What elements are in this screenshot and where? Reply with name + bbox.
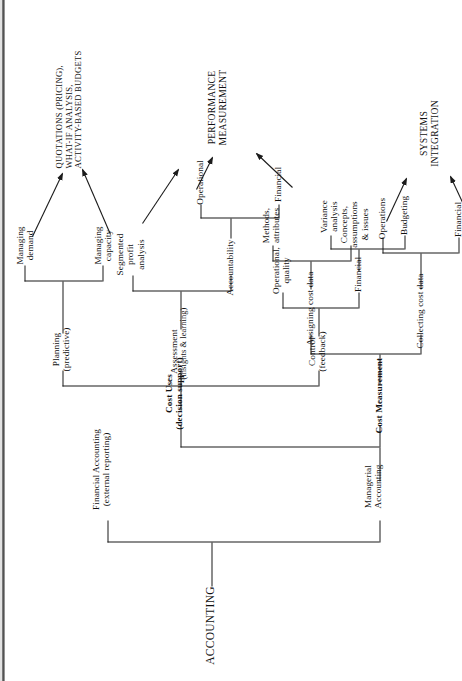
node-managing-capacity: Managing capacity xyxy=(92,221,113,269)
node-collecting-operations: Operations xyxy=(376,195,386,241)
node-collecting-financial: Financial xyxy=(452,198,462,240)
node-managing-capacity-line2: capacity xyxy=(102,221,112,269)
node-cost-measurement-label: Cost Measurement xyxy=(373,377,383,433)
node-planning-line2: (predictive) xyxy=(60,325,70,373)
node-concepts-assumptions-issues: Concepts, assumptions & issues xyxy=(338,197,369,251)
outcome-systems-integration: SYSTEMS INTEGRATION xyxy=(418,90,439,176)
node-assessment-line1: Assessment xyxy=(168,323,178,379)
arrow-segmented-to-performance xyxy=(142,169,178,223)
node-managing-demand: Managing demand xyxy=(14,221,35,269)
node-planning-line1: Planning xyxy=(50,325,60,373)
node-methods-attributes: Methods, attributes xyxy=(260,201,281,249)
node-accountability-operational: Operational xyxy=(194,157,204,207)
node-control-operational-line1: Operational, xyxy=(270,244,280,296)
node-control-operational-line2: quality xyxy=(280,244,290,296)
node-control-operational-quality: Operational, quality xyxy=(270,244,291,296)
node-managing-demand-line2: demand xyxy=(24,221,34,269)
node-segmented-profit-analysis: Segmented profit analysis xyxy=(114,229,145,279)
outcome-quotations-line1: QUOTATIONS (PRICING), xyxy=(54,18,64,168)
node-root-label: ACCOUNTING xyxy=(203,586,215,665)
node-assessment: Assessment (insights & learning) xyxy=(168,323,188,379)
outcome-performance-measurement-line1: PERFORMANCE xyxy=(206,53,217,161)
node-control-line1: Control xyxy=(306,329,316,373)
node-collecting-cost-data-label: Collecting cost data xyxy=(414,284,424,348)
node-methods-line1: Methods, xyxy=(260,201,270,249)
node-concepts-line3: & issues xyxy=(359,197,369,251)
node-accountability: Accountability xyxy=(224,237,234,297)
node-managerial-accounting: Managerial Accounting xyxy=(362,451,383,521)
node-collecting-operations-label: Operations xyxy=(376,195,386,241)
node-financial-accounting: Financial Accounting (external reporting… xyxy=(90,413,111,525)
outcome-performance-measurement: PERFORMANCE MEASUREMENT xyxy=(206,53,227,161)
node-managerial-accounting-line2: Accounting xyxy=(372,451,382,521)
node-accountability-financial-label: Financial xyxy=(272,163,282,205)
node-accountability-financial: Financial xyxy=(272,163,282,205)
node-financial-accounting-line2: (external reporting) xyxy=(100,413,110,525)
node-segmented-line1: Segmented xyxy=(114,229,124,279)
node-managing-capacity-line1: Managing xyxy=(92,221,102,269)
outcome-quotations-line3: ACTIVITY-BASED BUDGETS xyxy=(73,18,83,168)
node-methods-line2: attributes xyxy=(270,201,280,249)
node-collecting-cost-data: Collecting cost data xyxy=(414,284,424,348)
node-control-line2: (feedback) xyxy=(316,329,326,373)
node-control-financial-label: Financial xyxy=(352,253,362,295)
node-variance-analysis-line2: analysis xyxy=(328,194,338,238)
node-budgeting-label: Budgeting xyxy=(398,192,408,238)
node-financial-accounting-line1: Financial Accounting xyxy=(90,413,100,525)
node-managerial-accounting-line1: Managerial xyxy=(362,451,372,521)
node-variance-analysis: Variance analysis xyxy=(318,194,339,238)
outcome-systems-integration-line2: INTEGRATION xyxy=(429,90,440,176)
node-collecting-financial-label: Financial xyxy=(452,198,462,240)
node-accountability-label: Accountability xyxy=(224,237,234,297)
outcome-quotations: QUOTATIONS (PRICING), WHAT-IF ANALYSIS, … xyxy=(54,18,83,168)
node-planning: Planning (predictive) xyxy=(50,325,71,373)
node-variance-analysis-line1: Variance xyxy=(318,194,328,238)
node-assessment-line2: (insights & learning) xyxy=(178,323,187,379)
node-segmented-line2: profit xyxy=(124,229,134,279)
node-budgeting: Budgeting xyxy=(398,192,408,238)
node-control-financial: Financial xyxy=(352,253,362,295)
node-managing-demand-line1: Managing xyxy=(14,221,24,269)
node-segmented-line3: analysis xyxy=(135,229,145,279)
node-cost-measurement: Cost Measurement xyxy=(373,377,383,433)
node-accountability-operational-label: Operational xyxy=(194,157,204,207)
node-root-accounting: ACCOUNTING xyxy=(203,585,216,665)
node-concepts-line1: Concepts, xyxy=(338,197,348,251)
outcome-systems-integration-line1: SYSTEMS xyxy=(418,90,429,176)
outcome-performance-measurement-line2: MEASUREMENT xyxy=(217,53,228,161)
node-concepts-line2: assumptions xyxy=(348,197,358,251)
arrow-managing-demand-to-quotations xyxy=(32,173,62,236)
node-control: Control (feedback) xyxy=(306,329,327,373)
